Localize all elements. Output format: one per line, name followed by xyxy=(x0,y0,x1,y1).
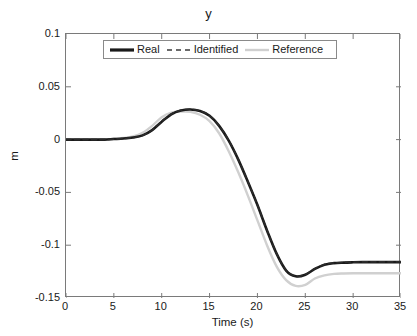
y-axis-tick-label: 0.1 xyxy=(45,27,60,39)
x-axis-label: Time (s) xyxy=(65,316,400,328)
series-line-real xyxy=(66,109,401,276)
y-axis-tick-label: -0.05 xyxy=(35,185,60,197)
x-axis-tick-label: 30 xyxy=(346,300,358,312)
chart-legend: Real Identified Reference xyxy=(103,40,337,59)
legend-swatch-solid-icon xyxy=(109,45,135,55)
legend-item-reference: Reference xyxy=(244,44,323,55)
legend-label-identified: Identified xyxy=(194,44,239,55)
x-axis-tick-labels: 05101520253035 xyxy=(65,300,400,316)
legend-label-real: Real xyxy=(137,44,160,55)
y-axis-tick-label: 0 xyxy=(54,133,60,145)
plot-area xyxy=(65,33,400,297)
x-axis-tick-label: 5 xyxy=(110,300,116,312)
legend-swatch-gray-icon xyxy=(244,45,270,55)
plot-svg xyxy=(66,34,401,298)
x-axis-tick-label: 20 xyxy=(250,300,262,312)
y-axis-tick-label: -0.1 xyxy=(41,238,60,250)
x-axis-tick-label: 15 xyxy=(202,300,214,312)
x-axis-tick-label: 35 xyxy=(394,300,406,312)
x-axis-tick-label: 25 xyxy=(298,300,310,312)
legend-item-real: Real xyxy=(109,44,160,55)
x-axis-tick-label: 10 xyxy=(155,300,167,312)
legend-swatch-dashed-icon xyxy=(166,45,192,55)
x-axis-tick-label: 0 xyxy=(62,300,68,312)
legend-item-identified: Identified xyxy=(166,44,239,55)
y-axis-tick-label: 0.05 xyxy=(39,80,60,92)
y-axis-tick-label: -0.15 xyxy=(35,291,60,303)
series-line-identified xyxy=(66,109,401,276)
legend-label-reference: Reference xyxy=(272,44,323,55)
chart-figure: y m 0.10.050-0.05-0.1-0.15 0510152025303… xyxy=(0,0,417,336)
y-axis-tick-labels: 0.10.050-0.05-0.1-0.15 xyxy=(0,33,60,297)
chart-title: y xyxy=(0,6,417,21)
